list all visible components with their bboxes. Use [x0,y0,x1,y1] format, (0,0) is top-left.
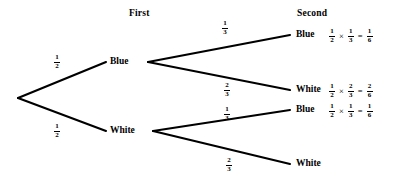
probability-blue-to-white: 2 3 [224,80,230,98]
branch-white-to-white [153,131,290,164]
probability-root-to-blue: 1 2 [54,52,60,70]
multiplication-sign: × [338,107,345,116]
node-second-blue-blue: Blue [296,29,314,39]
multiplication-sign: × [338,32,345,41]
equation-operand-first: 1 2 [329,103,335,119]
branch-root-to-white [18,98,106,131]
branch-white-to-blue [153,110,290,131]
fraction-third-bb: 1 3 [222,20,228,36]
equals-sign: = [357,87,364,96]
fraction-twothirds-bw: 2 3 [224,82,230,98]
fraction-third-wb: 1 3 [224,106,230,122]
node-second-white-blue: Blue [296,104,314,114]
node-first-blue: Blue [110,56,128,66]
equation-operand-second: 1 3 [348,28,354,44]
node-second-blue-white: White [296,84,321,94]
equation-white-blue: 1 2 × 1 3 = 1 6 [329,103,373,119]
branch-root-to-blue [18,62,106,98]
fraction-half-lower: 1 2 [54,123,60,139]
node-first-white: White [110,125,135,135]
node-second-white-white: White [296,158,321,168]
fraction-twothirds-ww: 2 3 [226,157,232,173]
equation-result: 1 6 [367,103,373,119]
probability-blue-to-blue: 1 3 [222,18,228,36]
fraction-half-upper: 1 2 [54,54,60,70]
equation-result: 2 6 [367,83,373,99]
probability-white-to-white: 2 3 [226,155,232,173]
equation-blue-white: 1 2 × 2 3 = 2 6 [329,83,373,99]
equation-blue-blue: 1 2 × 1 3 = 1 6 [329,28,373,44]
probability-root-to-white: 1 2 [54,121,60,139]
equation-operand-second: 2 3 [348,83,354,99]
multiplication-sign: × [338,87,345,96]
branch-blue-to-white [148,62,290,90]
probability-white-to-blue: 1 3 [224,104,230,122]
column-header-second: Second [297,8,327,18]
equation-operand-second: 1 3 [348,103,354,119]
equation-operand-first: 1 2 [329,28,335,44]
equals-sign: = [357,107,364,116]
branch-blue-to-blue [148,35,290,62]
equation-operand-first: 1 2 [329,83,335,99]
equals-sign: = [357,32,364,41]
probability-tree-diagram: First Second Blue White 1 2 1 2 Blue Whi… [0,0,411,183]
column-header-first: First [129,8,150,18]
equation-result: 1 6 [367,28,373,44]
